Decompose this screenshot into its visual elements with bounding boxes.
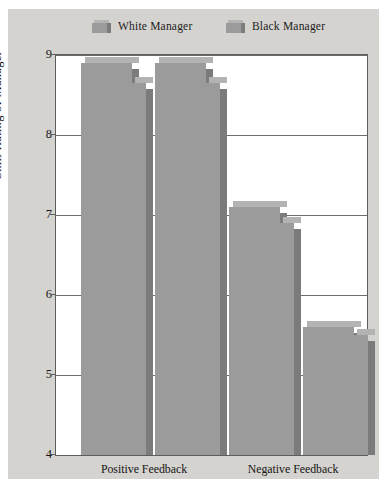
y-axis-title: Skill Rating of Manager <box>0 0 5 179</box>
bar-negative-white-2 <box>303 327 354 455</box>
legend-swatch-icon-black-manager <box>226 20 245 33</box>
y-tick-label-8: 8 <box>26 127 52 142</box>
legend-label-black-manager: Black Manager <box>252 20 325 32</box>
y-tick-label-4: 4 <box>26 447 52 462</box>
x-category-label-positive-feedback: Positive Feedback <box>74 462 214 477</box>
bar-positive-black <box>132 83 146 455</box>
bar-negative-black <box>280 223 294 455</box>
chart-figure: White Manager Black Manager Skill Rating… <box>0 0 387 487</box>
bar-positive-white <box>81 63 132 455</box>
gridline-9 <box>56 55 367 56</box>
bar-negative-white <box>229 207 280 455</box>
legend-swatch-icon-white-manager <box>92 20 111 33</box>
legend-item-black-manager: Black Manager <box>226 15 325 37</box>
y-tick-label-5: 5 <box>26 367 52 382</box>
legend-item-white-manager: White Manager <box>92 15 192 37</box>
plot-area <box>55 54 368 456</box>
chart-panel: White Manager Black Manager Skill Rating… <box>8 9 379 479</box>
chart-legend: White Manager Black Manager <box>8 15 379 39</box>
x-category-label-negative-feedback: Negative Feedback <box>223 462 363 477</box>
y-tick-label-9: 9 <box>26 47 52 62</box>
bar-positive-black-2 <box>206 83 220 455</box>
y-tick-label-6: 6 <box>26 287 52 302</box>
bar-positive-white-2 <box>155 63 206 455</box>
bar-negative-black-2 <box>354 335 368 455</box>
legend-label-white-manager: White Manager <box>118 20 192 32</box>
clipped-caption-sliver <box>0 0 387 9</box>
y-tick-label-7: 7 <box>26 207 52 222</box>
